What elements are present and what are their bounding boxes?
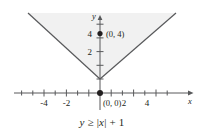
solution-region-shading [28,13,176,79]
y-intercept-label: (0, 4) [106,29,125,39]
graph-figure: -4 -2 2 4 2 4 x y (0, 4) (0, 0) y ≥ |x| … [0,0,204,136]
inequality-caption: y ≥ |x| + 1 [0,116,204,128]
origin-dot [97,90,103,96]
x-axis-label: x [187,96,192,106]
y-axis-label: y [91,11,96,21]
y-intercept-dot [97,31,102,36]
x-tick-label-4: 4 [145,98,150,108]
origin-label: (0, 0) [103,98,122,108]
x-tick-label--4: -4 [40,98,48,108]
y-tick-label-4: 4 [88,29,93,39]
caption-plus-one: + 1 [110,116,125,128]
x-tick-label-2: 2 [122,98,127,108]
x-tick-label--2: -2 [63,98,71,108]
x-axis-arrow [188,91,194,96]
y-tick-label-2: 2 [88,47,93,57]
